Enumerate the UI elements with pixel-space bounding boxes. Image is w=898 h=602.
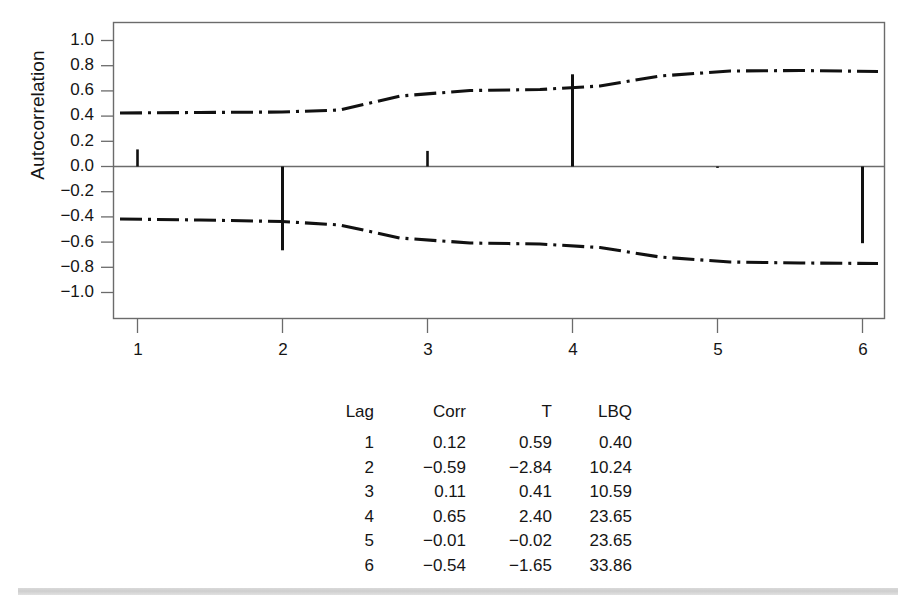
lower-significance-band bbox=[120, 219, 878, 264]
table-row: 2 −0.59 −2.84 10.24 bbox=[318, 456, 632, 480]
cell-t: 0.59 bbox=[466, 431, 552, 455]
y-tick-label-neg-0-2: −0.2 bbox=[32, 182, 94, 199]
y-tick-label-neg-0-4: −0.4 bbox=[32, 207, 94, 224]
plot-frame bbox=[114, 23, 885, 319]
cell-lbq: 0.40 bbox=[552, 431, 632, 455]
acf-spikes bbox=[138, 74, 863, 250]
column-header-lbq: LBQ bbox=[552, 400, 632, 431]
acf-statistics-table: Lag Corr T LBQ 1 0.12 0.59 0.40 2 −0.59 … bbox=[318, 400, 632, 578]
column-header-t: T bbox=[466, 400, 552, 431]
x-tick-label-1: 1 bbox=[118, 341, 158, 358]
cell-t: 2.40 bbox=[466, 505, 552, 529]
table-row: 4 0.65 2.40 23.65 bbox=[318, 505, 632, 529]
upper-significance-band bbox=[120, 71, 878, 114]
column-header-corr: Corr bbox=[374, 400, 466, 431]
x-tick-label-4: 4 bbox=[553, 341, 593, 358]
table-row: 5 −0.01 −0.02 23.65 bbox=[318, 529, 632, 553]
cell-t: −2.84 bbox=[466, 456, 552, 480]
cell-lbq: 10.24 bbox=[552, 456, 632, 480]
x-tick-label-5: 5 bbox=[698, 341, 738, 358]
cell-corr: 0.12 bbox=[374, 431, 466, 455]
cell-corr: 0.11 bbox=[374, 480, 466, 504]
cell-lbq: 23.65 bbox=[552, 529, 632, 553]
cell-lag: 5 bbox=[318, 529, 374, 553]
y-axis-ticks bbox=[101, 41, 113, 293]
y-tick-label-0-4: 0.4 bbox=[32, 106, 94, 123]
cell-t: −1.65 bbox=[466, 554, 552, 578]
cell-lbq: 10.59 bbox=[552, 480, 632, 504]
table-row: 1 0.12 0.59 0.40 bbox=[318, 431, 632, 455]
cell-t: −0.02 bbox=[466, 529, 552, 553]
cell-corr: −0.01 bbox=[374, 529, 466, 553]
cell-lag: 1 bbox=[318, 431, 374, 455]
y-tick-label-0-2: 0.2 bbox=[32, 132, 94, 149]
column-header-lag: Lag bbox=[318, 400, 374, 431]
cell-lag: 3 bbox=[318, 480, 374, 504]
cell-lag: 2 bbox=[318, 456, 374, 480]
y-tick-label-0-0: 0.0 bbox=[32, 157, 94, 174]
cell-corr: −0.54 bbox=[374, 554, 466, 578]
cell-lag: 6 bbox=[318, 554, 374, 578]
table-row: 3 0.11 0.41 10.59 bbox=[318, 480, 632, 504]
cell-corr: −0.59 bbox=[374, 456, 466, 480]
x-tick-label-6: 6 bbox=[843, 341, 883, 358]
cell-corr: 0.65 bbox=[374, 505, 466, 529]
cell-lbq: 33.86 bbox=[552, 554, 632, 578]
y-tick-label-1-0: 1.0 bbox=[32, 31, 94, 48]
cell-lag: 4 bbox=[318, 505, 374, 529]
table-header-row: Lag Corr T LBQ bbox=[318, 400, 632, 431]
cell-lbq: 23.65 bbox=[552, 505, 632, 529]
cell-t: 0.41 bbox=[466, 480, 552, 504]
y-tick-label-0-8: 0.8 bbox=[32, 56, 94, 73]
y-tick-label-0-6: 0.6 bbox=[32, 81, 94, 98]
page-edge-rule bbox=[18, 588, 898, 595]
y-tick-label-neg-1-0: −1.0 bbox=[32, 283, 94, 300]
x-tick-label-3: 3 bbox=[408, 341, 448, 358]
y-tick-label-neg-0-8: −0.8 bbox=[32, 258, 94, 275]
x-tick-label-2: 2 bbox=[263, 341, 303, 358]
acf-plot: Autocorrelation 1.0 0.8 0.6 0.4 0.2 0.0 … bbox=[0, 0, 898, 380]
table-row: 6 −0.54 −1.65 33.86 bbox=[318, 554, 632, 578]
x-axis-ticks bbox=[138, 319, 863, 334]
acf-plot-canvas bbox=[0, 0, 898, 380]
y-tick-label-neg-0-6: −0.6 bbox=[32, 233, 94, 250]
